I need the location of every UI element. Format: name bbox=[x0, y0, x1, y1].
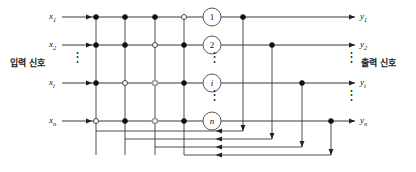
input-label-sub-3: i bbox=[53, 82, 55, 89]
output-ellipsis-upper: ⋮ bbox=[345, 55, 353, 59]
output-tap-2 bbox=[270, 43, 275, 48]
junction-r2-c2 bbox=[123, 43, 128, 48]
output-tap-3 bbox=[300, 81, 305, 86]
input-label-4: xn bbox=[49, 115, 56, 127]
junction-r4-c1 bbox=[94, 119, 99, 124]
output-label-sub-1: 1 bbox=[364, 16, 367, 23]
output-label-1: y1 bbox=[360, 11, 367, 23]
junction-r1-c1 bbox=[94, 15, 99, 20]
output-label-sub-3: i bbox=[364, 82, 366, 89]
neuron-ellipsis-upper: ⋮ bbox=[208, 55, 216, 59]
output-label-4: yn bbox=[360, 115, 367, 127]
output-ellipsis-lower: ⋮ bbox=[345, 93, 353, 97]
input-ellipsis: ⋮ bbox=[71, 55, 79, 59]
junction-r2-c4 bbox=[182, 43, 187, 48]
junction-r4-c2 bbox=[123, 119, 128, 124]
junction-r3-c3 bbox=[153, 81, 158, 86]
node-layer bbox=[94, 8, 334, 130]
input-label-3: xi bbox=[49, 77, 55, 89]
junction-r3-c4 bbox=[182, 81, 187, 86]
neuron-label-4: n bbox=[203, 116, 221, 126]
output-tap-4 bbox=[329, 119, 334, 124]
junction-r2-c3 bbox=[153, 43, 158, 48]
junction-r3-c2 bbox=[123, 81, 128, 86]
figure-canvas: 입력 신호 출력 신호 x1x2xixny1y2yiyn12in⋮⋮⋮⋮⋮ bbox=[0, 0, 416, 172]
input-label-1: x1 bbox=[49, 11, 56, 23]
output-label-sub-2: 2 bbox=[364, 44, 367, 51]
input-label-sub-2: 2 bbox=[53, 44, 56, 51]
junction-r4-c3 bbox=[153, 119, 158, 124]
junction-r1-c2 bbox=[123, 15, 128, 20]
junction-r3-c1 bbox=[94, 81, 99, 86]
junction-r1-c3 bbox=[153, 15, 158, 20]
output-label-2: y2 bbox=[360, 39, 367, 51]
input-signal-label: 입력 신호 bbox=[10, 56, 46, 69]
output-label-3: yi bbox=[360, 77, 366, 89]
output-signal-label: 출력 신호 bbox=[361, 56, 397, 69]
input-label-sub-4: n bbox=[53, 120, 56, 127]
output-tap-1 bbox=[241, 15, 246, 20]
input-label-sub-1: 1 bbox=[53, 16, 56, 23]
neuron-label-1: 1 bbox=[203, 12, 221, 22]
output-label-sub-4: n bbox=[364, 120, 367, 127]
junction-r4-c4 bbox=[182, 119, 187, 124]
neuron-ellipsis-lower: ⋮ bbox=[208, 93, 216, 97]
junction-r1-c4 bbox=[182, 15, 187, 20]
junction-r2-c1 bbox=[94, 43, 99, 48]
input-label-2: x2 bbox=[49, 39, 56, 51]
